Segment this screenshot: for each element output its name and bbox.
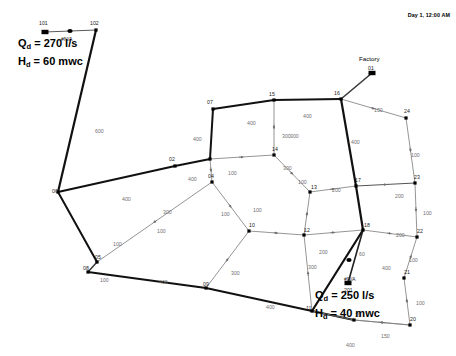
pipe-length-label: 100 — [113, 241, 122, 247]
pipe-length-label: 200 — [332, 187, 341, 193]
pipe-length-label: 200 — [395, 193, 404, 199]
node-id-label: 04 — [208, 173, 214, 179]
pipe-length-label: 100 — [411, 152, 420, 158]
pipe-length-label: 400 — [266, 304, 275, 310]
node-id-label: 20 — [410, 316, 416, 322]
node-id-label: 13 — [311, 184, 317, 190]
node-17[interactable] — [354, 184, 357, 187]
pipe-length-label: 400 — [303, 113, 312, 119]
factory-head-line: Hd = 40 mwc — [315, 306, 380, 324]
node-id-label: 22 — [417, 228, 423, 234]
source-pump-na-label: #N/A — [61, 36, 73, 42]
pipe-length-label: 200 — [319, 249, 328, 255]
pipe-length-label: 150 — [374, 107, 383, 113]
node-15[interactable] — [272, 98, 275, 101]
node-v100[interactable] — [67, 29, 72, 33]
node-14[interactable] — [272, 153, 275, 156]
node-07[interactable] — [211, 107, 214, 110]
pipe-17-18[interactable] — [356, 186, 363, 230]
pipe-length-label: 100 — [221, 211, 230, 217]
node-18[interactable] — [361, 228, 364, 231]
node-id-label: 17 — [355, 177, 361, 183]
source-flow-symbol: Q — [18, 37, 27, 49]
node-04[interactable] — [210, 180, 213, 183]
node-id-label: 11 — [306, 305, 311, 311]
node-202[interactable] — [346, 258, 351, 262]
pipe-06-05[interactable] — [58, 192, 97, 262]
node-24[interactable] — [404, 116, 407, 119]
pipe-length-label: 100 — [228, 170, 237, 176]
node-layer — [42, 28, 419, 326]
pipe-length-label: 400 — [346, 342, 355, 348]
node-02[interactable] — [173, 164, 176, 167]
node-05[interactable] — [95, 260, 98, 263]
factory-title-label: Factory — [359, 55, 380, 62]
node-id-label: 02 — [169, 156, 175, 162]
source-demand-annotation: Qd = 270 l/s Hd = 60 mwc — [18, 36, 83, 72]
pipe-length-label: 60 — [359, 251, 365, 257]
node-03[interactable] — [208, 157, 211, 160]
pipe-length-label: 200 — [396, 232, 405, 238]
source-head-line: Hd = 60 mwc — [18, 54, 83, 72]
node-id-label: 06 — [52, 188, 58, 194]
node-22[interactable] — [415, 235, 418, 238]
pipe-length-label: 400 — [351, 139, 360, 145]
flow-arrow-layer — [68, 31, 417, 323]
node-id-label: 18 — [364, 222, 370, 228]
node-id-label: #N/A — [344, 276, 356, 282]
simulation-timestamp: Day 1, 12:00 AM — [408, 12, 450, 18]
flow-arrow — [290, 171, 293, 174]
pipe-02-03[interactable] — [175, 159, 210, 166]
factory-head-value: = 40 mwc — [328, 307, 380, 319]
node-12[interactable] — [302, 233, 305, 236]
pipe-16-01[interactable] — [341, 73, 372, 99]
node-id-label: 09 — [203, 281, 209, 287]
node-01[interactable] — [369, 71, 376, 75]
pipe-length-label: 400 — [188, 176, 197, 182]
node-13[interactable] — [308, 190, 311, 193]
node-id-label: 19 — [355, 312, 361, 318]
factory-head-symbol: H — [315, 307, 323, 319]
node-102[interactable] — [94, 28, 97, 31]
pipe-length-label: 400 — [382, 265, 391, 271]
node-16[interactable] — [339, 97, 342, 100]
pipe-length-label: 400 — [247, 120, 256, 126]
pipe-length-label: 100 — [100, 277, 109, 283]
node-id-label: 101 — [39, 20, 48, 26]
pipe-length-label: 100 — [157, 228, 166, 234]
pipe-length-label: 300 — [163, 209, 172, 215]
pipe-03-07[interactable] — [210, 109, 213, 159]
pipe-length-label: 300 — [282, 133, 291, 139]
node-id-label: 16 — [334, 90, 340, 96]
node-id-label: 07 — [207, 99, 213, 105]
pipe-length-label: 300 — [308, 264, 317, 270]
node-id-label: 23 — [414, 174, 420, 180]
pipe-09-11[interactable] — [206, 288, 312, 311]
pipe-length-label: 300 — [283, 165, 292, 171]
pipe-06-02[interactable] — [58, 166, 175, 192]
node-id-label: 102 — [90, 20, 99, 26]
node-id-label: 201 — [344, 287, 353, 293]
flow-arrow — [229, 204, 231, 207]
node-23[interactable] — [413, 181, 416, 184]
node-id-label: 14 — [272, 146, 278, 152]
pipe-length-label: 100 — [416, 300, 425, 306]
pipe-length-label: 300 — [290, 133, 299, 139]
source-head-symbol: H — [18, 55, 26, 67]
node-id-label: 24 — [404, 108, 410, 114]
source-flow-line: Qd = 270 l/s — [18, 36, 83, 54]
pipe-length-label: 400 — [193, 136, 202, 142]
pipe-length-label: 100 — [423, 210, 432, 216]
pipe-length-label: 400 — [122, 196, 131, 202]
factory-flow-symbol: Q — [315, 289, 324, 301]
node-21[interactable] — [402, 276, 405, 279]
pipe-07-15[interactable] — [213, 100, 274, 109]
node-id-label: 21 — [404, 269, 410, 275]
node-10[interactable] — [247, 229, 250, 232]
pipe-15-16[interactable] — [274, 99, 341, 100]
node-20[interactable] — [408, 323, 411, 326]
node-id-label: 05 — [95, 254, 101, 260]
node-101[interactable] — [42, 30, 49, 34]
pipe-length-label: 100 — [253, 207, 262, 213]
node-id-label: 08 — [83, 265, 89, 271]
